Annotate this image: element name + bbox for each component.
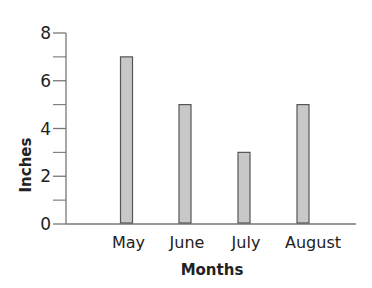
bars (121, 57, 310, 223)
y-axis-title: Inches (17, 137, 35, 192)
x-tick-label: June (169, 233, 205, 252)
x-tick-label: July (231, 233, 261, 252)
bar-june (179, 105, 191, 223)
y-tick-label: 2 (40, 166, 51, 186)
bar-august (297, 105, 309, 223)
x-tick-label: May (112, 233, 145, 252)
y-tick-label: 6 (40, 71, 51, 91)
bar-may (121, 57, 133, 223)
bar-july (238, 152, 250, 223)
x-axis-title: Months (181, 261, 244, 279)
y-tick-label: 0 (40, 214, 51, 234)
y-tick-label: 8 (40, 23, 51, 43)
y-axis: 02468 (40, 23, 66, 234)
y-tick-label: 4 (40, 119, 51, 139)
x-tick-labels: MayJuneJulyAugust (112, 233, 341, 252)
x-tick-label: August (285, 233, 341, 252)
bar-chart: 02468 MayJuneJulyAugust Months Inches (0, 0, 372, 288)
